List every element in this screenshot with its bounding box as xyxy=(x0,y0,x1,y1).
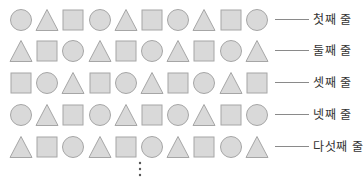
row-label: 셋째 줄 xyxy=(313,73,352,90)
circle-icon xyxy=(61,135,85,159)
triangle-icon xyxy=(35,103,59,127)
circle-icon xyxy=(35,71,59,95)
square-icon xyxy=(166,71,190,95)
row-label: 넷째 줄 xyxy=(313,105,352,122)
triangle-icon xyxy=(88,135,112,159)
circle-icon xyxy=(140,135,164,159)
square-icon xyxy=(9,71,33,95)
shape-row-3: 셋째 줄 xyxy=(0,71,360,101)
circle-icon xyxy=(192,71,216,95)
triangle-icon xyxy=(219,71,243,95)
circle-icon xyxy=(9,103,33,127)
circle-icon xyxy=(140,39,164,63)
square-icon xyxy=(114,135,138,159)
square-icon xyxy=(219,103,243,127)
square-icon xyxy=(192,39,216,63)
shape-row-1: 첫째 줄 xyxy=(0,8,360,38)
square-icon xyxy=(61,8,85,32)
row-label: 첫째 줄 xyxy=(313,10,352,27)
shape-row-5: 다섯째 줄 xyxy=(0,135,360,165)
square-icon xyxy=(61,103,85,127)
circle-icon xyxy=(166,103,190,127)
triangle-icon xyxy=(245,135,269,159)
square-icon xyxy=(114,39,138,63)
triangle-icon xyxy=(35,8,59,32)
continuation-dots-icon xyxy=(138,160,142,178)
circle-icon xyxy=(166,8,190,32)
triangle-icon xyxy=(166,39,190,63)
circle-icon xyxy=(245,103,269,127)
triangle-icon xyxy=(9,135,33,159)
circle-icon xyxy=(9,8,33,32)
square-icon xyxy=(192,135,216,159)
triangle-icon xyxy=(114,8,138,32)
triangle-icon xyxy=(245,39,269,63)
label-connector-line xyxy=(275,146,309,147)
circle-icon xyxy=(88,103,112,127)
triangle-icon xyxy=(9,39,33,63)
row-label: 다섯째 줄 xyxy=(313,137,363,154)
label-connector-line xyxy=(275,82,309,83)
circle-icon xyxy=(88,8,112,32)
square-icon xyxy=(35,135,59,159)
triangle-icon xyxy=(88,39,112,63)
triangle-icon xyxy=(192,8,216,32)
square-icon xyxy=(140,103,164,127)
shape-row-4: 넷째 줄 xyxy=(0,103,360,133)
shape-row-2: 둘째 줄 xyxy=(0,39,360,69)
circle-icon xyxy=(61,39,85,63)
square-icon xyxy=(140,8,164,32)
triangle-icon xyxy=(192,103,216,127)
circle-icon xyxy=(114,71,138,95)
label-connector-line xyxy=(275,50,309,51)
square-icon xyxy=(219,8,243,32)
label-connector-line xyxy=(275,114,309,115)
triangle-icon xyxy=(166,135,190,159)
triangle-icon xyxy=(61,71,85,95)
circle-icon xyxy=(245,8,269,32)
square-icon xyxy=(245,71,269,95)
row-label: 둘째 줄 xyxy=(313,41,352,58)
circle-icon xyxy=(219,135,243,159)
triangle-icon xyxy=(114,103,138,127)
label-connector-line xyxy=(275,19,309,20)
square-icon xyxy=(88,71,112,95)
triangle-icon xyxy=(140,71,164,95)
square-icon xyxy=(35,39,59,63)
circle-icon xyxy=(219,39,243,63)
